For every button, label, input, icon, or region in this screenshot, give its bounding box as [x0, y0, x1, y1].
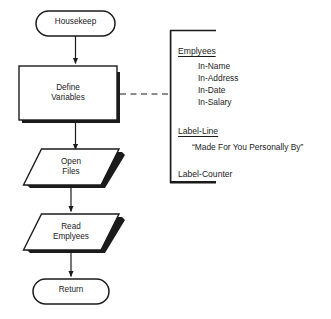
node-read-emplyees	[24, 214, 126, 253]
annotation-group-label-counter: Label-Counter	[178, 163, 328, 181]
spacer	[178, 153, 328, 163]
list-item: In-Salary	[198, 97, 328, 109]
node-return	[33, 279, 109, 304]
annotation-heading-label-counter: Label-Counter	[178, 169, 232, 180]
annotation-group-label-line: Label-Line “Made For You Personally By”	[178, 120, 328, 154]
flowchart-diagram: Housekeep Define Variables Open Files Re…	[0, 0, 331, 319]
node-open-files	[24, 149, 126, 188]
annotation-quote-text: “Made For You Personally By”	[192, 142, 328, 154]
annotation-heading-label-line: Label-Line	[178, 126, 218, 137]
annotation-field-list: In-Name In-Address In-Date In-Salary	[178, 61, 328, 109]
node-define-variables	[19, 66, 120, 123]
annotation-panel: Emplyees In-Name In-Address In-Date In-S…	[178, 40, 328, 181]
node-start-housekeep	[36, 11, 115, 36]
list-item: In-Name	[198, 61, 328, 73]
list-item: In-Date	[198, 85, 328, 97]
list-item: In-Address	[198, 73, 328, 85]
spacer	[178, 109, 328, 120]
annotation-heading-emplyees: Emplyees	[178, 46, 216, 57]
annotation-group-emplyees: Emplyees In-Name In-Address In-Date In-S…	[178, 40, 328, 109]
